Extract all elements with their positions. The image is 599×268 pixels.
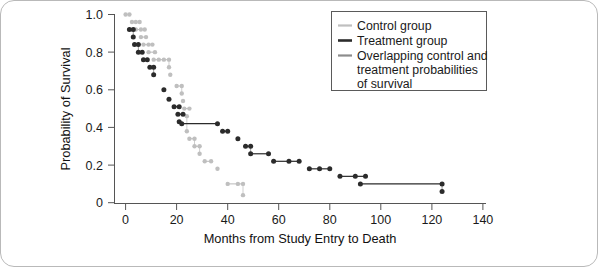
data-point [353, 174, 358, 179]
data-point [130, 20, 134, 24]
data-point [197, 144, 201, 148]
legend-label-control: Control group [357, 19, 432, 33]
x-tick-label: 80 [323, 213, 337, 227]
data-point [146, 50, 150, 54]
data-point [440, 181, 445, 186]
data-point [243, 144, 248, 149]
data-point [225, 129, 230, 134]
x-tick-label: 40 [221, 213, 235, 227]
data-point [187, 137, 191, 141]
data-point [317, 166, 322, 171]
legend-label-treatment: Treatment group [357, 34, 448, 48]
data-point [192, 144, 196, 148]
data-point [151, 65, 156, 70]
chart-page: 1.0 0.8 0.6 0.4 0.2 0 0 20 40 60 80 100 … [0, 0, 599, 268]
data-point [145, 57, 150, 62]
data-point [141, 42, 145, 46]
data-point [134, 20, 138, 24]
data-point [203, 159, 207, 163]
data-point [172, 104, 177, 109]
data-point [131, 27, 136, 32]
data-point [143, 27, 147, 31]
data-point [337, 174, 342, 179]
data-point [192, 137, 196, 141]
data-point [144, 35, 148, 39]
y-tick-label: 0.2 [86, 159, 103, 173]
data-point [241, 193, 245, 197]
data-point [157, 57, 161, 61]
data-point [127, 12, 131, 16]
y-axis-title: Probability of Survival [58, 47, 73, 170]
data-point [146, 42, 150, 46]
x-tick-label: 0 [122, 213, 129, 227]
data-point [177, 104, 182, 109]
data-point [358, 181, 363, 186]
data-point [440, 189, 445, 194]
data-point [150, 42, 154, 46]
data-point [151, 72, 156, 77]
x-tick-label: 20 [170, 213, 184, 227]
data-point [136, 42, 141, 47]
data-point [248, 151, 253, 156]
y-tick-label: 1.0 [86, 8, 103, 22]
series-control [123, 12, 245, 197]
data-point [166, 97, 171, 102]
data-point [161, 87, 166, 92]
data-point [180, 91, 184, 95]
data-point [180, 84, 184, 88]
y-tick-label: 0.8 [86, 46, 103, 60]
y-tick-label: 0.4 [86, 121, 103, 135]
data-point [215, 167, 219, 171]
y-tick-label: 0 [96, 196, 103, 210]
data-point [137, 20, 141, 24]
data-point [168, 73, 172, 77]
y-tick-marks [108, 15, 115, 203]
data-point [225, 182, 229, 186]
data-point [297, 159, 302, 164]
data-point [220, 129, 225, 134]
data-point [174, 84, 178, 88]
legend-label-overlap-3: of survival [357, 77, 412, 91]
x-tick-label: 100 [370, 213, 391, 227]
data-point [241, 182, 245, 186]
y-tick-label: 0.6 [86, 83, 103, 97]
data-point [197, 152, 201, 156]
data-point [181, 112, 186, 117]
legend-label-overlap-1: Overlapping control and [357, 49, 488, 63]
data-point [185, 129, 189, 133]
x-tick-label: 60 [272, 213, 286, 227]
legend-label-overlap-2: treatment probabilities [357, 63, 478, 77]
data-point [181, 99, 185, 103]
data-point [286, 159, 291, 164]
data-point [139, 27, 143, 31]
x-tick-label: 140 [472, 213, 493, 227]
data-point [215, 121, 220, 126]
data-point [209, 159, 213, 163]
data-point [179, 121, 184, 126]
data-point [131, 35, 136, 40]
survival-chart: 1.0 0.8 0.6 0.4 0.2 0 0 20 40 60 80 100 … [0, 0, 599, 268]
x-tick-labels: 0 20 40 60 80 100 120 140 [122, 213, 493, 227]
data-point [153, 50, 157, 54]
data-point [182, 106, 186, 110]
data-point [236, 182, 240, 186]
data-point [363, 174, 368, 179]
data-point [140, 50, 145, 55]
data-point [167, 65, 171, 69]
data-point [123, 12, 127, 16]
data-point [162, 57, 166, 61]
x-axis-title: Months from Study Entry to Death [204, 231, 397, 246]
y-tick-labels: 1.0 0.8 0.6 0.4 0.2 0 [86, 8, 103, 210]
x-tick-marks [126, 204, 483, 211]
legend: Control group Treatment group Overlappin… [332, 12, 488, 92]
data-point [248, 144, 253, 149]
data-point [327, 166, 332, 171]
data-point [175, 112, 180, 117]
data-point [167, 57, 171, 61]
data-point [151, 57, 155, 61]
data-point [271, 159, 276, 164]
x-tick-label: 120 [421, 213, 442, 227]
data-point [187, 106, 191, 110]
data-point [266, 151, 271, 156]
data-point [235, 136, 240, 141]
